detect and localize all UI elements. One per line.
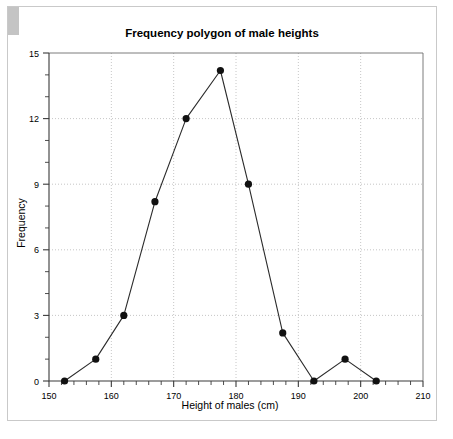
data-point-marker [279,329,286,336]
page-corner-artifact [8,7,19,35]
x-tick-label: 210 [415,391,430,401]
x-axis-title: Height of males (cm) [182,399,279,411]
data-point-marker [341,356,348,363]
data-point-marker [183,115,190,122]
y-tick-label: 9 [34,180,39,190]
x-tick-label: 160 [104,391,119,401]
chart-title: Frequency polygon of male heights [125,27,319,39]
x-tick-label: 170 [166,391,181,401]
figure-card: Frequency polygon of male heights 150160… [7,6,437,421]
data-point-marker [120,312,127,319]
data-point-marker [245,181,252,188]
frequency-polygon-chart: Frequency polygon of male heights 150160… [8,7,436,420]
y-tick-label: 3 [34,311,39,321]
data-point-marker [373,377,380,384]
y-tick-label: 0 [34,377,39,387]
data-point-marker [151,198,158,205]
x-tick-label: 190 [291,391,306,401]
data-point-marker [310,377,317,384]
data-point-marker [92,356,99,363]
data-point-marker [217,67,224,74]
y-tick-label: 12 [29,114,39,124]
x-tick-label: 150 [41,391,56,401]
y-tick-label: 6 [34,245,39,255]
x-tick-label: 200 [353,391,368,401]
y-tick-label: 15 [29,49,39,59]
data-point-marker [61,377,68,384]
y-axis-title: Frequency [15,197,27,247]
